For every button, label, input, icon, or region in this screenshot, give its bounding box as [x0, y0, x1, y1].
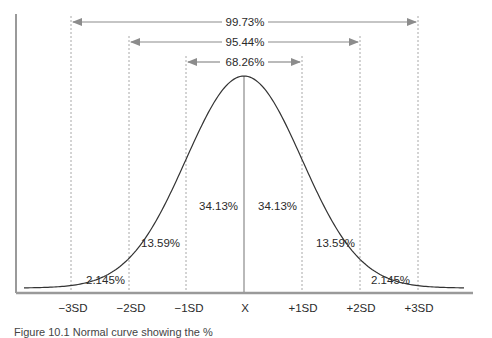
segment-label: 13.59%	[316, 237, 355, 249]
x-tick-plus-1sd: +1SD	[288, 302, 317, 314]
figure-caption: Figure 10.1 Normal curve showing the %	[14, 326, 213, 338]
x-tick-minus-1sd: −1SD	[174, 302, 203, 314]
x-tick-mean: X	[241, 302, 249, 314]
segment-label: 13.59%	[141, 237, 180, 249]
x-tick-minus-2sd: −2SD	[116, 302, 145, 314]
x-tick-minus-3sd: −3SD	[58, 302, 87, 314]
segment-label: 2.145%	[86, 274, 125, 286]
segment-label: 34.13%	[258, 200, 297, 212]
range-label-1sd: 68.26%	[225, 56, 264, 68]
x-tick-plus-2sd: +2SD	[346, 302, 375, 314]
range-label-3sd: 99.73%	[225, 16, 264, 28]
range-label-2sd: 95.44%	[225, 36, 264, 48]
segment-label: 2.145%	[371, 274, 410, 286]
x-tick-plus-3sd: +3SD	[404, 302, 433, 314]
segment-label: 34.13%	[199, 200, 238, 212]
